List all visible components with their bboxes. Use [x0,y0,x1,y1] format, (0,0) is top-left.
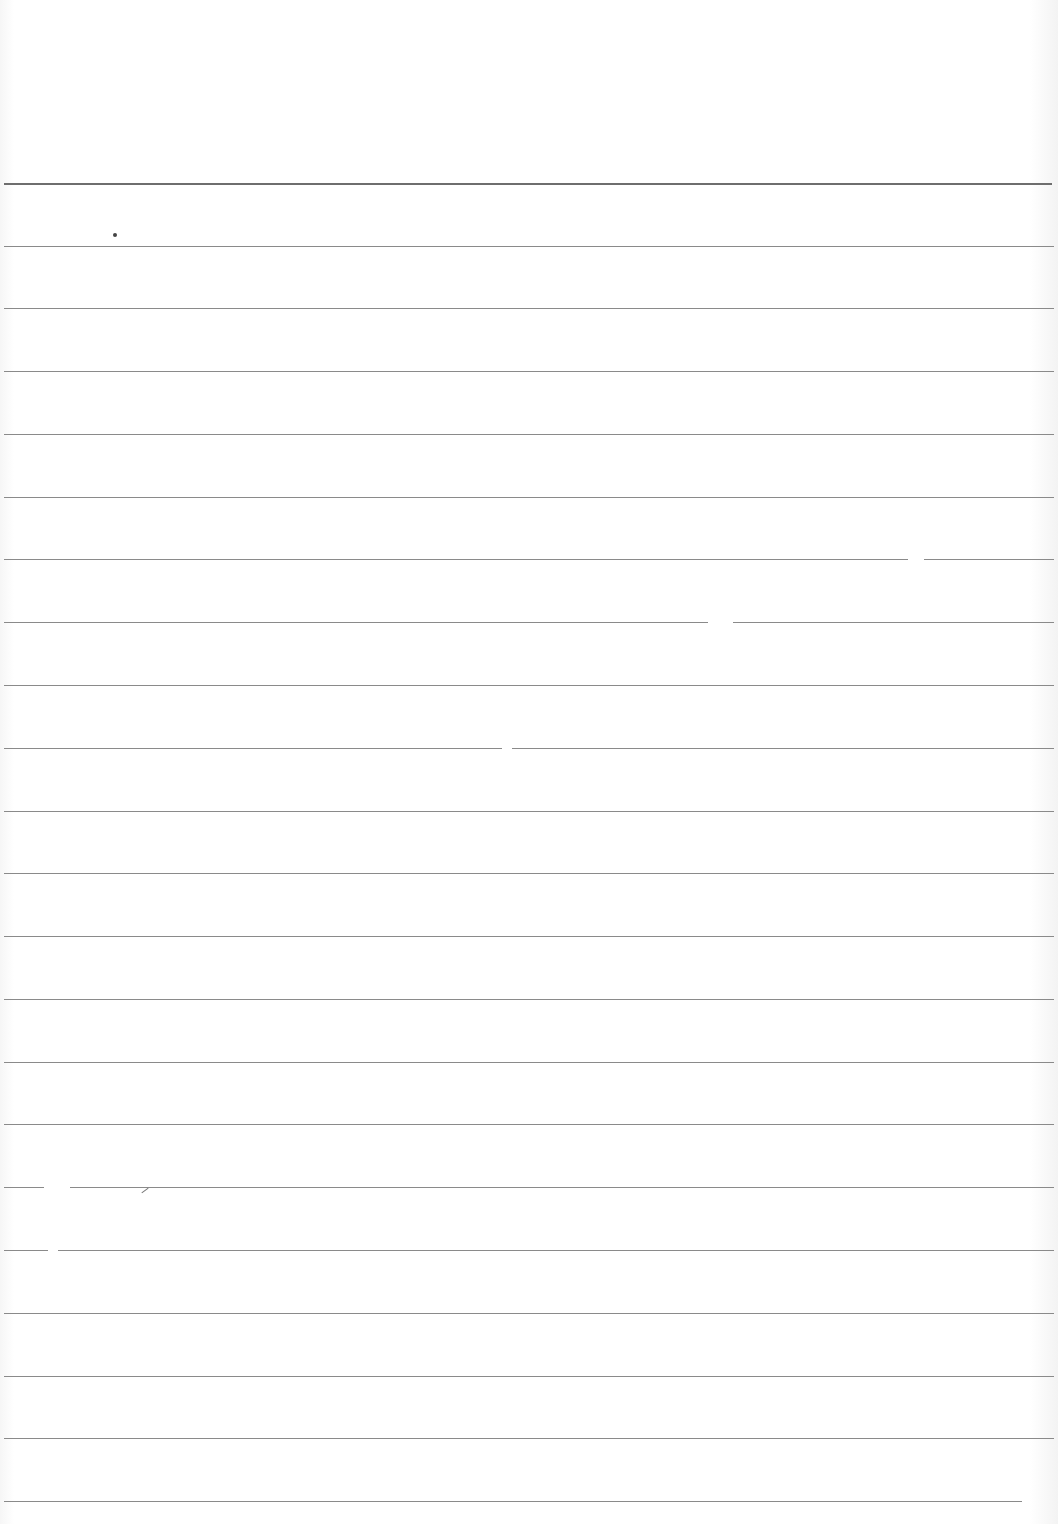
rule-line [4,1313,1054,1314]
rule-line [4,936,1054,937]
ink-speck [113,233,117,237]
top-rule-line [4,183,1052,185]
pen-stroke [141,1188,148,1193]
rule-gap [502,747,512,750]
rule-line [4,1376,1054,1377]
rule-line [4,1501,1022,1502]
rule-gap [44,1186,70,1189]
rule-line [4,999,1054,1000]
ruled-paper-sheet [0,0,1058,1524]
rule-line [4,1062,1054,1063]
rule-line [4,559,1054,560]
rule-line [4,497,1054,498]
rule-line [4,246,1054,247]
rule-gap [708,621,733,624]
rule-line [4,1124,1054,1125]
rule-line [4,748,1054,749]
rule-line [4,622,1054,623]
rule-line [4,1187,1054,1188]
rule-line [4,811,1054,812]
rule-line [4,1438,1054,1439]
rule-line [4,434,1054,435]
rule-line [4,685,1054,686]
rule-line [4,873,1054,874]
rule-line [4,308,1054,309]
rule-line [4,371,1054,372]
rule-gap [48,1249,58,1252]
rule-gap [908,558,924,561]
rule-line [4,1250,1054,1251]
